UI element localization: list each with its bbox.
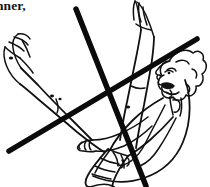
- navel: [126, 106, 130, 109]
- illustration-page: nner,: [0, 0, 210, 187]
- line-art-illustration: [0, 0, 210, 187]
- nose: [159, 75, 164, 76]
- mouth: [162, 83, 174, 88]
- knee-dot: [50, 95, 54, 98]
- caption-text-fragment: nner,: [0, 0, 26, 14]
- heel-dot: [9, 56, 13, 59]
- knee-dot-2: [58, 98, 61, 100]
- eye-pupil: [168, 72, 171, 74]
